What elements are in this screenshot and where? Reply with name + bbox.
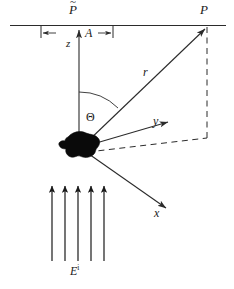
x-axis-line [86, 152, 166, 208]
label-incident-field: Ei [70, 264, 79, 277]
label-projected-point-accent: ~ [70, 0, 76, 7]
label-aperture-span: A [85, 27, 92, 39]
label-y-axis: y [153, 115, 158, 127]
label-range-vector: r [143, 66, 148, 78]
scattering-geometry-figure: ~ P P z A r Θ y x Ei [0, 0, 234, 289]
figure-canvas [0, 0, 234, 289]
label-z-axis: z [66, 38, 70, 49]
r-vector-line [86, 29, 205, 143]
label-projected-point: ~ P [69, 3, 77, 16]
theta-angle-arc [79, 92, 118, 108]
label-incident-field-superscript: i [77, 263, 79, 272]
label-x-axis: x [154, 207, 159, 219]
incident-field-arrows [52, 186, 104, 261]
label-scattering-angle: Θ [86, 111, 95, 123]
label-observation-point: P [200, 3, 208, 16]
scatterer-blob [59, 132, 100, 158]
